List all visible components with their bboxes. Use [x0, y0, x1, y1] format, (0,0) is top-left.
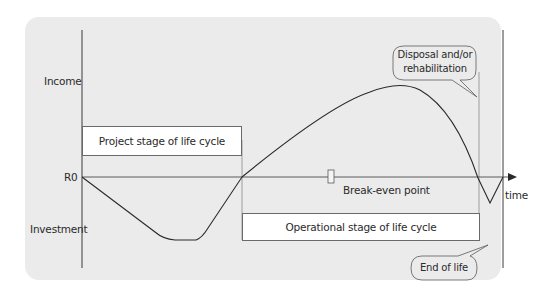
- investment-label: Investment: [30, 223, 87, 235]
- r0-label: R0: [64, 171, 78, 183]
- operational-stage-box: Operational stage of life cycle: [242, 213, 480, 241]
- break-even-label: Break-even point: [343, 184, 430, 196]
- disposal-line2: rehabilitation: [393, 62, 477, 76]
- break-even-marker: [328, 170, 334, 183]
- project-stage-box: Project stage of life cycle: [82, 126, 242, 156]
- disposal-callout-text: Disposal and/or rehabilitation: [393, 48, 477, 76]
- disposal-line1: Disposal and/or: [393, 48, 477, 62]
- income-label: Income: [44, 75, 81, 87]
- end-of-life-text: End of life: [411, 261, 477, 275]
- time-arrow-icon: [508, 173, 517, 181]
- time-label: time: [505, 189, 528, 201]
